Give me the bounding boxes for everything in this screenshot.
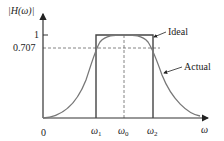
actual-label: Actual [184,62,211,72]
y-tick-label-0707: 0.707 [13,43,36,53]
actual-pointer [164,67,182,73]
x-tick-label-omega2: ω2 [147,126,158,138]
x-axis-label: ω [201,125,208,135]
ideal-response [96,35,153,118]
ideal-pointer [154,32,166,37]
omega1-sub: 1 [98,130,102,138]
omega2-sub: 2 [154,130,158,138]
y-axis-label: |H(ω)| [8,6,34,16]
x-tick-label-0: 0 [41,128,46,138]
omega0-base: ω [118,125,125,136]
x-tick-label-omega0: ω0 [118,126,129,138]
ideal-label: Ideal [168,27,188,37]
omega2-base: ω [147,125,154,136]
y-tick-label-1: 1 [34,30,39,40]
actual-response [43,35,200,118]
x-tick-label-omega1: ω1 [91,126,102,138]
omega1-base: ω [91,125,98,136]
omega0-sub: 0 [125,130,129,138]
